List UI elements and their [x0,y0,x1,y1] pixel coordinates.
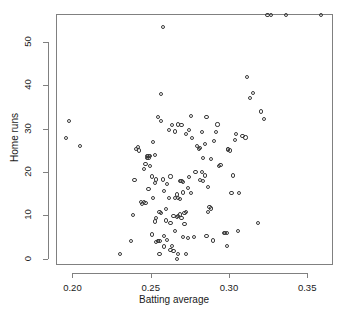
data-point [233,138,237,142]
data-point [157,239,161,243]
data-point [176,252,180,256]
data-point [157,252,161,256]
x-axis-tick [229,273,230,278]
data-point [146,187,150,191]
data-point [189,114,193,118]
data-point [118,252,122,256]
y-axis-tick [43,129,48,130]
data-point [193,170,197,174]
x-axis-tick-label: 0.25 [133,282,169,293]
data-point [262,117,266,121]
data-point [284,13,288,17]
data-point [212,139,216,143]
x-axis-tick [151,273,152,278]
data-point [173,129,177,133]
data-point [204,234,208,238]
data-point [168,174,172,178]
data-point [186,186,190,190]
data-point [129,239,133,243]
data-point [154,177,158,181]
data-point [173,229,177,233]
data-point [179,216,183,220]
data-point [143,201,147,205]
data-point [187,128,191,132]
data-point [184,252,188,256]
data-point [170,244,174,248]
data-point [259,109,263,113]
data-point [228,148,232,152]
data-point [165,182,169,186]
data-point [198,146,202,150]
data-point [236,229,240,233]
data-point [201,156,205,160]
data-point [151,140,155,144]
data-point [159,119,163,123]
data-point [150,174,154,178]
data-point [67,119,71,123]
data-point [64,136,68,140]
x-axis-tick-label: 0.20 [54,282,90,293]
x-axis-label: Batting average [0,294,348,305]
data-point [148,164,152,168]
x-axis-tick [307,273,308,278]
data-point [184,132,188,136]
y-axis-tick-label: 30 [22,117,33,139]
data-point [162,189,166,193]
y-axis-tick [43,42,48,43]
y-axis-line [48,42,49,258]
data-point [178,197,182,201]
data-point [167,196,171,200]
data-point [245,75,249,79]
data-point [162,244,166,248]
data-point [175,257,179,261]
data-point [131,213,135,217]
data-point [190,136,194,140]
data-point [161,177,165,181]
data-point [192,235,196,239]
data-point [143,162,147,166]
data-point [251,91,255,95]
scatter-plot-figure: 010203040500.200.250.300.35 Batting aver… [0,0,348,320]
data-point [142,167,146,171]
data-point [182,222,186,226]
data-point [164,218,168,222]
data-point [153,153,157,157]
data-point [170,123,174,127]
y-axis-tick [43,85,48,86]
data-point [164,207,168,211]
x-axis-tick [72,273,73,278]
data-point [319,13,323,17]
x-axis-tick-label: 0.35 [289,282,325,293]
data-point [154,216,158,220]
y-axis-tick-label: 20 [22,160,33,182]
y-axis-tick [43,172,48,173]
data-point [206,185,210,189]
x-axis-tick-label: 0.30 [211,282,247,293]
data-point [150,232,154,236]
data-point [243,135,247,139]
data-point [231,173,235,177]
data-point [161,25,165,29]
y-axis-label: Home runs [9,98,20,178]
data-point [269,13,273,17]
y-axis-tick-label: 0 [22,247,33,269]
data-point [181,180,185,184]
data-point [78,144,82,148]
data-point [203,173,207,177]
data-point [225,244,229,248]
y-axis-tick-label: 40 [22,74,33,96]
data-point [187,175,191,179]
data-point [203,142,207,146]
data-point [165,238,169,242]
data-point [151,196,155,200]
data-points-layer [57,15,332,264]
data-point [209,157,213,161]
data-point [234,132,238,136]
data-point [200,130,204,134]
data-point [181,235,185,239]
data-point [159,92,163,96]
y-axis-tick [43,259,48,260]
data-point [171,249,175,253]
data-point [186,236,190,240]
data-point [211,238,215,242]
